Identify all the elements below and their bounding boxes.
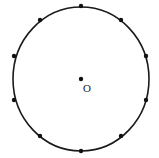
center-label: O	[83, 82, 91, 94]
circumference-point	[119, 18, 123, 22]
circle-diagram: O	[0, 0, 159, 158]
circumference-point	[79, 149, 83, 153]
circumference-point	[38, 134, 42, 138]
circumference-point	[38, 18, 42, 22]
circumference-point	[119, 134, 123, 138]
circumference-point	[79, 4, 83, 8]
circumference-point	[12, 98, 16, 102]
circumference-point	[12, 54, 16, 58]
circumference-point	[144, 54, 148, 58]
circumference-point	[144, 98, 148, 102]
diagram-canvas: O	[0, 0, 159, 158]
center-point	[79, 77, 83, 81]
